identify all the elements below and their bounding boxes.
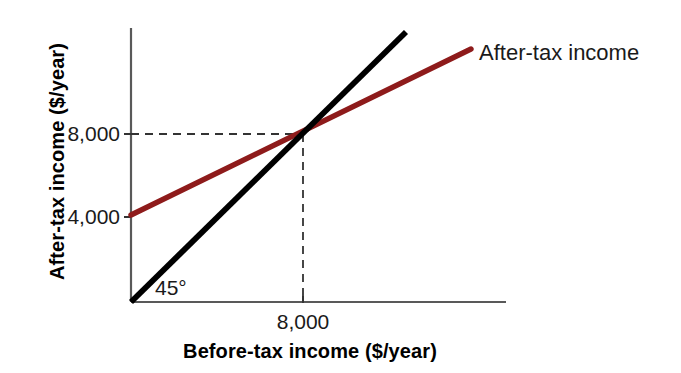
chart-figure: 8,000 4,000 8,000 45° After-tax income B… (0, 0, 681, 373)
forty-five-degree-annotation: 45° (155, 276, 187, 300)
after-tax-income-series-label: After-tax income (479, 40, 639, 66)
forty-five-degree-line (131, 32, 406, 302)
x-axis-title: Before-tax income ($/year) (60, 340, 560, 363)
x-axis-tick-label-8000: 8,000 (253, 310, 353, 334)
y-axis-title: After-tax income ($/year) (46, 12, 69, 312)
